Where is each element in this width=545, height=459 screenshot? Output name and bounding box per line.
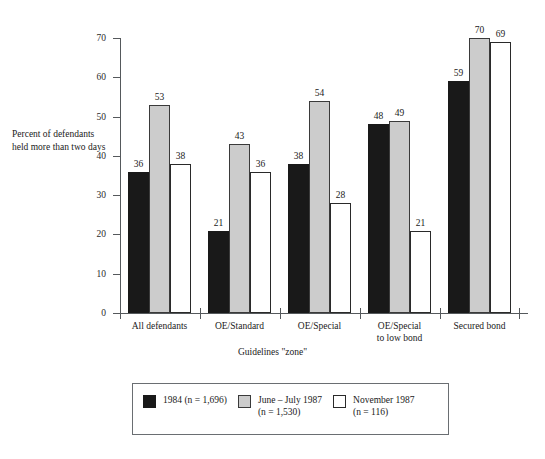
y-axis-tick-label: 60 (70, 72, 106, 82)
bar[interactable]: 48 (368, 124, 389, 313)
legend-item[interactable]: June – July 1987 (n = 1,530) (238, 394, 322, 418)
bar-group-bars: 365338 (128, 38, 191, 313)
bar-value-label: 70 (475, 25, 485, 36)
plot-area: 365338214336385428484921597069 (120, 38, 528, 313)
bar-value-label: 36 (256, 159, 266, 170)
bar-group-bars: 484921 (368, 38, 431, 313)
y-axis-tick-label: 50 (70, 112, 106, 122)
bar-value-label: 69 (496, 29, 506, 40)
y-axis-tick-label: 40 (70, 151, 106, 161)
bar-value-label: 28 (336, 190, 346, 201)
y-axis-tick-label: 10 (70, 269, 106, 279)
bar[interactable]: 38 (170, 164, 191, 313)
bar[interactable]: 21 (208, 231, 229, 314)
bar-chart: Percent of defendants held more than two… (0, 0, 545, 459)
bar[interactable]: 28 (330, 203, 351, 313)
bar-value-label: 53 (155, 92, 165, 103)
bar-group: 597069 (448, 38, 511, 313)
legend: 1984 (n = 1,696)June – July 1987 (n = 1,… (132, 383, 449, 435)
legend-swatch (238, 395, 251, 408)
legend-item[interactable]: 1984 (n = 1,696) (143, 394, 227, 408)
bar-value-label: 36 (134, 159, 144, 170)
bar[interactable]: 53 (149, 105, 170, 313)
bar[interactable]: 43 (229, 144, 250, 313)
bar-group-bars: 597069 (448, 38, 511, 313)
bar[interactable]: 36 (250, 172, 271, 313)
bar-value-label: 54 (315, 88, 325, 99)
bar-group: 365338 (128, 38, 191, 313)
bar-group: 214336 (208, 38, 271, 313)
y-axis-tick-label: 70 (70, 33, 106, 43)
bar[interactable]: 38 (288, 164, 309, 313)
bar-group: 484921 (368, 38, 431, 313)
bar-group-bars: 214336 (208, 38, 271, 313)
bar[interactable]: 49 (389, 121, 410, 314)
bar[interactable]: 69 (490, 42, 511, 313)
legend-label: 1984 (n = 1,696) (163, 394, 227, 406)
bar-value-label: 59 (454, 68, 464, 79)
bar[interactable]: 54 (309, 101, 330, 313)
y-axis-tick-label: 30 (70, 190, 106, 200)
bar-group-bars: 385428 (288, 38, 351, 313)
bar[interactable]: 21 (410, 231, 431, 314)
bar[interactable]: 59 (448, 81, 469, 313)
bar-value-label: 38 (176, 151, 186, 162)
legend-label: November 1987 (n = 116) (353, 394, 414, 418)
legend-swatch (143, 395, 156, 408)
bar-group: 385428 (288, 38, 351, 313)
y-axis-tick-label: 0 (70, 308, 106, 318)
y-axis-tick-label: 20 (70, 229, 106, 239)
x-axis-category-label: Secured bond (430, 320, 530, 332)
legend-items: 1984 (n = 1,696)June – July 1987 (n = 1,… (143, 394, 426, 418)
x-axis-title: Guidelines "zone" (0, 347, 545, 357)
bar[interactable]: 70 (469, 38, 490, 313)
bar-value-label: 21 (416, 218, 426, 229)
legend-item[interactable]: November 1987 (n = 116) (333, 394, 414, 418)
bar-value-label: 48 (374, 111, 384, 122)
legend-label: June – July 1987 (n = 1,530) (258, 394, 322, 418)
x-axis-line (120, 313, 528, 314)
bar-value-label: 49 (395, 108, 405, 119)
legend-swatch (333, 395, 346, 408)
bar-value-label: 38 (294, 151, 304, 162)
bar[interactable]: 36 (128, 172, 149, 313)
bar-value-label: 21 (214, 218, 224, 229)
bar-value-label: 43 (235, 131, 245, 142)
